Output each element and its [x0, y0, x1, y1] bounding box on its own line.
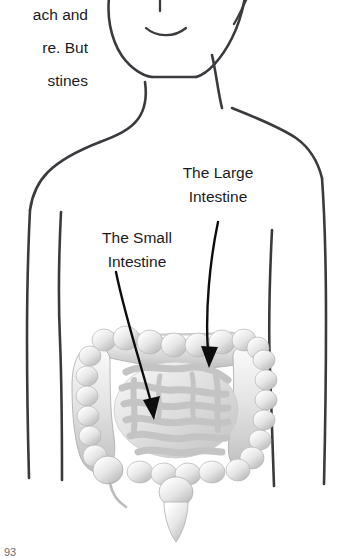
body-copy-line-2: re. But: [42, 39, 88, 56]
label-large-intestine-line-2: Intestine: [189, 188, 248, 205]
label-large-intestine-line-1: The Large: [183, 164, 254, 181]
appendix: [110, 483, 126, 507]
cecum: [93, 456, 123, 484]
body-copy-line-3: stines: [48, 72, 89, 89]
mouth: [146, 28, 186, 35]
hair-tick: [234, 0, 248, 24]
label-small-intestine-line-2: Intestine: [108, 253, 167, 270]
intestines-illustration: [72, 326, 277, 542]
label-small-intestine-line-1: The Small: [102, 229, 172, 246]
page-number: 93: [4, 546, 16, 558]
label-small-intestine: The Small Intestine: [102, 229, 172, 270]
body-copy-line-1: ach and: [33, 6, 88, 23]
head-outline: [109, 0, 249, 77]
label-large-intestine: The Large Intestine: [183, 164, 254, 205]
anatomy-figure: ach and re. But stines The Large Intesti…: [0, 0, 356, 558]
rectum: [159, 477, 193, 542]
left-body-copy: ach and re. But stines: [33, 6, 89, 89]
small-intestine: [114, 362, 238, 458]
diagram-page: ach and re. But stines The Large Intesti…: [0, 0, 356, 558]
